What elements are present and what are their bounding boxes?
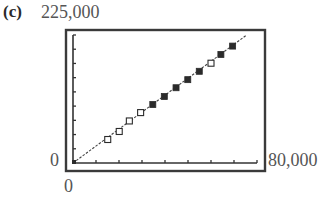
filled-square-marker [150,102,156,108]
filled-square-marker [161,93,167,99]
filled-square-marker [173,85,179,91]
hollow-square-marker [116,128,122,134]
plot-frame [66,30,265,171]
filled-square-marker [218,51,224,57]
hollow-square-marker [138,110,144,116]
origin-marker [72,160,76,164]
filled-square-marker [196,68,202,74]
filled-square-marker [230,43,236,49]
filled-square-marker [185,77,191,83]
hollow-square-marker [105,137,111,143]
hollow-square-marker [208,60,214,66]
chart-plot [0,0,323,198]
hollow-square-marker [126,118,132,124]
